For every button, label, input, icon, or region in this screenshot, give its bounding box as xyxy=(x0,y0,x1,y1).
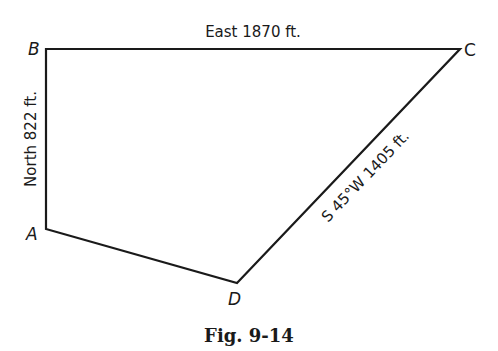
vertex-label-b: B xyxy=(28,39,40,59)
vertex-label-a: A xyxy=(25,224,38,244)
traverse-polygon xyxy=(46,49,460,283)
vertex-label-d: D xyxy=(228,289,241,309)
figure-caption: Fig. 9-14 xyxy=(204,325,294,346)
traverse-diagram: B C A D East 1870 ft. North 822 ft. S 45… xyxy=(0,0,498,351)
edge-label-bc: East 1870 ft. xyxy=(205,23,301,41)
edge-label-ab: North 822 ft. xyxy=(22,91,40,187)
edge-label-cd: S 45°W 1405 ft. xyxy=(318,127,413,226)
vertex-label-c: C xyxy=(464,40,476,60)
